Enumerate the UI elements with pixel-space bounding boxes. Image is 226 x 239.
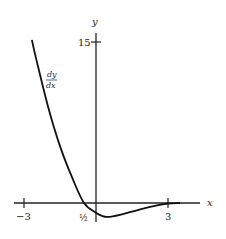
- curve-label-denominator: dx: [46, 81, 56, 90]
- dydx-curve: [32, 40, 180, 217]
- y-axis-label: y: [91, 16, 98, 27]
- x-tick-label-half: ½: [79, 213, 88, 223]
- x-tick-label-neg3: −3: [16, 211, 31, 222]
- curve-label-numerator: dy: [47, 70, 57, 79]
- chart: y x 15 −3 ½ 3 dy dx: [0, 0, 226, 239]
- x-tick-label-3: 3: [165, 211, 171, 222]
- x-axis-label: x: [207, 197, 213, 208]
- y-tick-label-15: 15: [78, 37, 91, 48]
